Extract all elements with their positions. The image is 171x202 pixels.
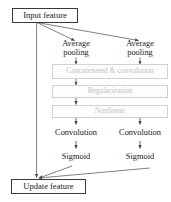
node-convolution-right-label: Convolution bbox=[119, 128, 161, 137]
node-average-pooling-left-label-line2: pooling bbox=[63, 48, 89, 57]
node-sigmoid-right-label: Sigmoid bbox=[126, 152, 154, 161]
node-update-feature-label: Update feature bbox=[23, 182, 73, 191]
node-average-pooling-right[interactable]: Average pooling bbox=[112, 38, 168, 58]
node-average-pooling-left[interactable]: Average pooling bbox=[48, 38, 104, 58]
node-concatenated-convolution-label: Concatenated & convolution bbox=[66, 67, 153, 75]
node-concatenated-convolution[interactable]: Concatenated & convolution bbox=[52, 64, 168, 79]
node-input-feature-label: Input feature bbox=[23, 11, 67, 20]
node-convolution-right[interactable]: Convolution bbox=[110, 126, 170, 139]
connector-layer bbox=[0, 0, 171, 202]
node-convolution-left-label: Convolution bbox=[55, 128, 97, 137]
node-average-pooling-left-label-line1: Average bbox=[62, 39, 90, 48]
node-sigmoid-right[interactable]: Sigmoid bbox=[114, 150, 166, 163]
node-nonlinear-label: Nonlinear bbox=[95, 107, 125, 115]
node-update-feature[interactable]: Update feature bbox=[11, 179, 86, 194]
node-regularization[interactable]: Regularization bbox=[52, 85, 168, 98]
edge-sigmoid-left-to-update bbox=[39, 166, 72, 178]
node-average-pooling-right-label-line2: pooling bbox=[127, 48, 153, 57]
node-sigmoid-left[interactable]: Sigmoid bbox=[50, 150, 102, 163]
edge-sigmoid-right-to-update bbox=[39, 168, 150, 178]
node-convolution-left[interactable]: Convolution bbox=[46, 126, 106, 139]
node-sigmoid-left-label: Sigmoid bbox=[62, 152, 90, 161]
flowchart-diagram: Input feature Average pooling Average po… bbox=[0, 0, 171, 202]
node-input-feature[interactable]: Input feature bbox=[12, 8, 78, 23]
node-nonlinear[interactable]: Nonlinear bbox=[52, 105, 168, 119]
node-regularization-label: Regularization bbox=[88, 87, 133, 95]
node-average-pooling-right-label-line1: Average bbox=[126, 39, 154, 48]
